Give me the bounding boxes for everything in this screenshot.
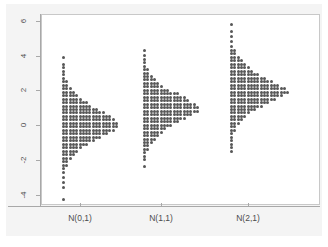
data-dot [247,66,250,69]
data-dot [283,87,286,90]
data-dot [153,138,156,141]
data-dot [62,181,65,184]
y-tick-mark [36,90,40,91]
y-tick-label: -2 [19,150,29,170]
data-dot [230,23,233,26]
x-tick-mark [161,203,162,207]
data-dot [237,122,240,125]
data-dot [69,87,72,90]
x-axis-line [8,206,320,207]
y-tick-mark [36,160,40,161]
y-axis-line [40,14,41,206]
data-dot [160,131,163,134]
y-tick-mark [36,125,40,126]
y-tick-label: 6 [19,11,29,31]
data-dot [65,164,68,167]
data-dot [62,171,65,174]
x-tick-label: N(2,1) [218,213,278,223]
data-dot [62,56,65,59]
y-tick-mark [36,56,40,57]
x-tick-label: N(0,1) [50,213,110,223]
data-dot [196,110,199,113]
data-dot [79,146,82,149]
data-dot [75,150,78,153]
data-dot [143,49,146,52]
data-dot [273,98,276,101]
data-dot [163,127,166,130]
y-tick-label: 0 [19,115,29,135]
data-dot [69,157,72,160]
y-tick-label: 4 [19,46,29,66]
data-dot [286,91,289,94]
data-dot [260,105,263,108]
data-dot [280,94,283,97]
x-tick-mark [80,203,81,207]
y-tick-mark [36,195,40,196]
data-dot [85,143,88,146]
x-tick-label: N(1,1) [131,213,191,223]
y-tick-label: -4 [19,185,29,205]
data-dot [62,176,65,179]
y-tick-mark [36,21,40,22]
data-dot [230,150,233,153]
dot-density-plot-figure: 6420-2-4 N(0,1)N(1,1)N(2,1) [0,0,328,247]
data-dot [230,30,233,33]
y-tick-label: 2 [19,80,29,100]
data-dot [150,141,153,144]
data-dot [92,139,95,142]
data-dot [183,117,186,120]
data-dot [112,129,115,132]
data-dot [270,80,273,83]
x-tick-mark [248,203,249,207]
